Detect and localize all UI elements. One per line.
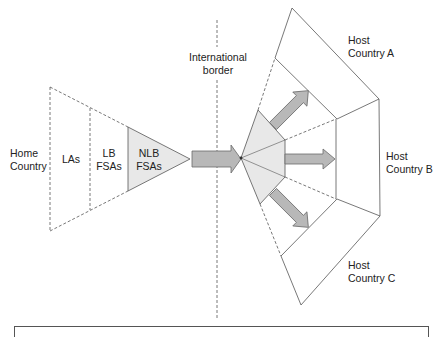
host-a-line2: Country A <box>348 47 394 60</box>
caption-box-edge <box>14 326 429 337</box>
las-label: LAs <box>52 153 90 166</box>
nlb-label-line2: FSAs <box>128 160 170 173</box>
lb-label-line2: FSAs <box>90 160 128 173</box>
arrow-to-country-c <box>266 185 315 234</box>
lb-label-line1: LB <box>90 147 128 160</box>
host-b-line2: Country B <box>386 163 433 176</box>
nlb-fsas-label: NLB FSAs <box>128 147 170 173</box>
host-b-line1: Host <box>386 150 433 163</box>
main-cross-border-arrow <box>192 145 241 173</box>
international-border-label: International border <box>186 51 250 77</box>
home-label-line2: Country <box>10 160 47 173</box>
home-country-label: Home Country <box>10 147 47 173</box>
host-c-line2: Country C <box>348 272 395 285</box>
lb-fsas-label: LB FSAs <box>90 147 128 173</box>
arrow-to-country-b <box>285 149 335 169</box>
border-label-line1: International <box>186 51 250 64</box>
nlb-label-line1: NLB <box>128 147 170 160</box>
host-country-b-label: Host Country B <box>386 150 433 176</box>
host-a-line1: Host <box>348 34 394 47</box>
arrow-to-country-a <box>266 84 315 133</box>
border-label-line2: border <box>186 64 250 77</box>
host-country-c-label: Host Country C <box>348 259 395 285</box>
host-country-a-label: Host Country A <box>348 34 394 60</box>
host-c-line1: Host <box>348 259 395 272</box>
home-label-line1: Home <box>10 147 47 160</box>
fan-center-dot <box>240 157 243 160</box>
